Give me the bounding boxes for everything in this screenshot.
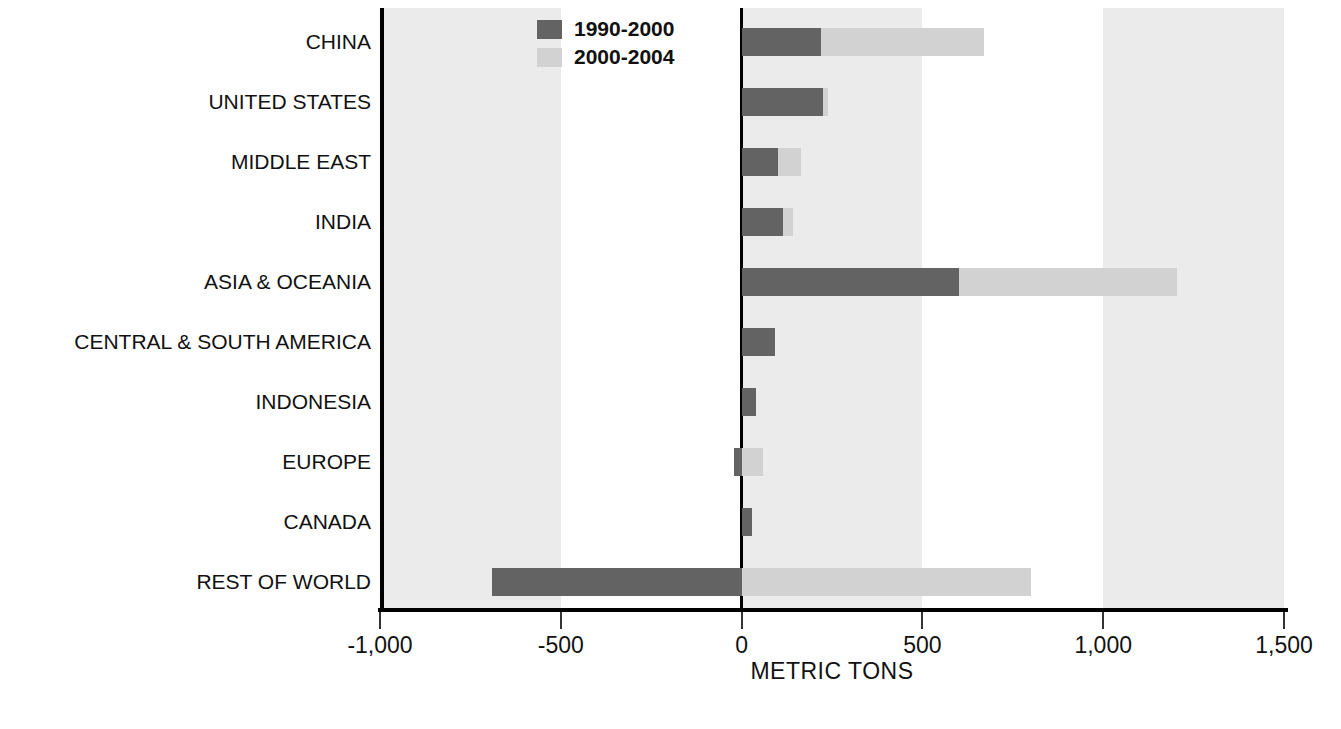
background-band-1: [380, 8, 561, 608]
y-axis-category-label: MIDDLE EAST: [0, 150, 371, 174]
bar-segment-1990-2000: [742, 268, 959, 296]
bar-segment-2000-2004: [742, 448, 764, 476]
bar-segment-2000-2004: [778, 148, 801, 176]
bar-segment-2000-2004: [783, 208, 793, 236]
x-axis-tick-label: -1,000: [347, 632, 412, 659]
x-axis-tick: [921, 612, 923, 629]
bar-segment-2000-2004: [959, 268, 1178, 296]
bar-segment-1990-2000: [742, 148, 778, 176]
y-axis-category-label: CENTRAL & SOUTH AMERICA: [0, 330, 371, 354]
y-axis-category-label: CHINA: [0, 30, 371, 54]
legend-swatch-dark-icon: [537, 20, 562, 39]
bar-segment-1990-2000: [742, 328, 776, 356]
x-axis-tick-label: 0: [735, 632, 748, 659]
x-axis-tick-label: 1,000: [1074, 632, 1132, 659]
legend: 1990-2000 2000-2004: [537, 16, 747, 72]
legend-label-2000-2004: 2000-2004: [574, 45, 674, 69]
legend-item-2000-2004[interactable]: 2000-2004: [537, 44, 747, 70]
legend-swatch-light-icon: [537, 48, 562, 67]
x-axis-tick: [560, 612, 562, 629]
x-axis-tick: [1102, 612, 1104, 629]
legend-label-1990-2000: 1990-2000: [574, 17, 674, 41]
bar-chart: CHINAUNITED STATESMIDDLE EASTINDIAASIA &…: [0, 0, 1341, 729]
x-axis-tick: [379, 612, 381, 629]
legend-item-1990-2000[interactable]: 1990-2000: [537, 16, 747, 42]
bar-segment-1990-2000: [742, 388, 756, 416]
x-axis-tick-label: 1,500: [1255, 632, 1313, 659]
y-axis-category-labels: CHINAUNITED STATESMIDDLE EASTINDIAASIA &…: [0, 0, 371, 729]
x-axis-title: METRIC TONS: [380, 658, 1284, 685]
bar-segment-2000-2004: [823, 88, 828, 116]
y-axis-line: [380, 8, 384, 608]
background-band-3: [1103, 8, 1284, 608]
x-axis-tick-label: -500: [538, 632, 584, 659]
y-axis-category-label: INDONESIA: [0, 390, 371, 414]
plot-area: -1,000-50005001,0001,500: [380, 8, 1284, 608]
y-axis-category-label: UNITED STATES: [0, 90, 371, 114]
y-axis-category-label: ASIA & OCEANIA: [0, 270, 371, 294]
x-axis-tick-label: 500: [903, 632, 941, 659]
bar-segment-1990-2000: [734, 448, 741, 476]
y-axis-category-label: INDIA: [0, 210, 371, 234]
bar-segment-1990-2000: [742, 88, 823, 116]
y-axis-category-label: CANADA: [0, 510, 371, 534]
bar-segment-2000-2004: [742, 568, 1031, 596]
y-axis-category-label: EUROPE: [0, 450, 371, 474]
y-axis-category-label: REST OF WORLD: [0, 570, 371, 594]
bar-segment-1990-2000: [742, 28, 822, 56]
x-axis-tick: [1283, 612, 1285, 629]
bar-segment-2000-2004: [821, 28, 984, 56]
bar-segment-1990-2000: [492, 568, 742, 596]
bar-segment-1990-2000: [742, 208, 784, 236]
x-axis-line: [378, 608, 1288, 612]
bar-segment-1990-2000: [742, 508, 753, 536]
x-axis-tick: [741, 612, 743, 629]
